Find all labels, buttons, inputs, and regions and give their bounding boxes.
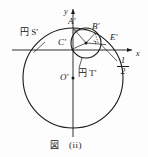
point-label-B: B′	[92, 22, 99, 31]
x-axis-label: x	[136, 50, 140, 58]
point-label-E: E′	[110, 33, 117, 42]
leader-line-circle-t	[79, 58, 82, 68]
leader-line-circle-s	[34, 42, 46, 53]
circle-s-label: 円 S′	[20, 28, 38, 37]
fraction-denominator: 2	[117, 67, 129, 76]
x-axis-arrowhead	[127, 48, 132, 52]
segment-center-to-B	[86, 33, 95, 43]
y-axis-label: y	[64, 8, 68, 16]
circle-t-label: 円 T′	[78, 69, 97, 78]
figure-caption: 図 (ii)	[50, 141, 82, 150]
half-radius-fraction: 1 2	[117, 56, 129, 77]
point-label-A: A′	[68, 17, 75, 26]
point-dot-O-prime	[72, 77, 75, 80]
leader-line-half-radius	[101, 44, 118, 61]
fraction-numerator: 1	[117, 56, 129, 65]
geometry-figure: y x A′ B′ C′ E′ O′ 円 S′ 円 T′ 1 2 図 (ii)	[0, 0, 148, 157]
y-axis-arrowhead	[71, 9, 75, 14]
point-label-C: C′	[58, 38, 66, 47]
point-dot-circle-t-center	[85, 42, 88, 45]
point-label-O: O′	[60, 73, 68, 82]
segment-center-to-E	[86, 43, 106, 45]
